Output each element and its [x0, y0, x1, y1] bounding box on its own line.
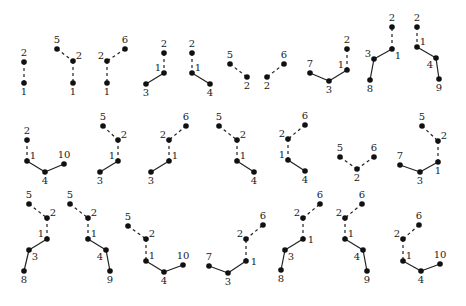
node-label: 1 [149, 250, 155, 261]
dashed-edge [169, 126, 186, 140]
node-label: 4 [207, 87, 213, 98]
solid-edge [285, 239, 303, 250]
dashed-edge [103, 126, 118, 140]
trees-diagram: 2152162121321452627312831221492141052136… [0, 0, 466, 306]
node-label: 4 [42, 175, 48, 186]
node-label: 3 [143, 87, 149, 98]
node-label: 2 [354, 172, 360, 183]
node-label: 2 [21, 47, 27, 58]
tree-node [103, 247, 109, 253]
node-label: 1 [21, 86, 27, 97]
node-label: 7 [307, 58, 313, 69]
node-label: 2 [389, 12, 395, 23]
tree-node [260, 222, 266, 228]
node-label: 8 [21, 274, 27, 285]
tree-node [44, 236, 50, 242]
node-label: 5 [125, 211, 131, 222]
solid-edge [106, 250, 110, 271]
node-label: 4 [427, 59, 433, 70]
tree-node [400, 236, 406, 242]
node-label: 5 [26, 189, 32, 200]
node-label: 1 [155, 62, 161, 73]
tree-node [435, 159, 441, 165]
node-label: 2 [414, 12, 420, 23]
solid-edge [417, 47, 436, 58]
node-label: 2 [279, 128, 285, 139]
node-label: 2 [189, 38, 195, 49]
node-label: 10 [58, 149, 71, 160]
node-label: 2 [244, 80, 250, 91]
node-label: 10 [434, 249, 447, 260]
tree-node [354, 166, 360, 172]
dashed-edge [246, 225, 263, 239]
tree-node [264, 74, 270, 80]
node-label: 2 [24, 125, 30, 136]
tree-t18: 52138 [21, 189, 56, 285]
node-label: 5 [100, 111, 106, 122]
dashed-edge [128, 226, 146, 239]
node-label: 6 [281, 49, 287, 60]
node-label: 1 [251, 256, 257, 267]
tree-node [61, 161, 67, 167]
tree-t15: 6214 [279, 110, 308, 185]
tree-t6: 52 [227, 49, 250, 91]
tree-node [125, 223, 131, 229]
tree-node [360, 247, 366, 253]
tree-node [26, 201, 32, 207]
tree-node [104, 80, 110, 86]
tree-node [104, 58, 110, 64]
solid-edge [237, 161, 254, 172]
node-label: 5 [419, 111, 425, 122]
tree-t2: 521 [54, 34, 82, 97]
tree-node [367, 77, 373, 83]
solid-edge [164, 265, 183, 272]
solid-edge [228, 261, 246, 273]
node-label: 3 [326, 84, 332, 95]
node-label: 1 [395, 50, 401, 61]
tree-node [183, 123, 189, 129]
tree-node [307, 70, 313, 76]
node-label: 6 [302, 110, 308, 121]
node-label: 2 [98, 50, 104, 61]
solid-edge [345, 239, 363, 250]
node-label: 3 [365, 48, 371, 59]
solid-edge [370, 59, 374, 80]
tree-node [285, 157, 291, 163]
tree-t4: 213 [143, 38, 167, 98]
tree-node [302, 122, 308, 128]
tree-node [342, 215, 348, 221]
tree-t3: 621 [98, 34, 128, 97]
tree-node [300, 215, 306, 221]
node-label: 1 [30, 150, 36, 161]
node-label: 5 [216, 111, 222, 122]
tree-t12: 5213 [97, 111, 127, 186]
node-label: 2 [237, 228, 243, 239]
node-label: 4 [418, 274, 424, 285]
dashed-edge [267, 64, 284, 77]
tree-node [70, 80, 76, 86]
tree-node [243, 258, 249, 264]
node-label: 2 [240, 129, 246, 140]
node-label: 1 [70, 86, 76, 97]
tree-node [281, 61, 287, 67]
tree-node [437, 261, 443, 267]
node-label: 2 [50, 207, 56, 218]
node-label: 5 [54, 34, 60, 45]
node-label: 2 [336, 207, 342, 218]
tree-node [244, 74, 250, 80]
tree-node [107, 268, 113, 274]
node-label: 1 [91, 228, 97, 239]
tree-t21: 73126 [206, 210, 266, 287]
dashed-edge [70, 204, 88, 218]
node-label: 2 [121, 129, 127, 140]
node-label: 1 [420, 36, 426, 47]
solid-edge [100, 161, 118, 172]
dashed-edge [422, 126, 438, 141]
tree-node [397, 162, 403, 168]
tree-t1: 21 [21, 47, 27, 97]
tree-node [161, 269, 167, 275]
node-label: 2 [344, 34, 350, 45]
solid-edge [45, 164, 64, 172]
node-label: 3 [148, 175, 154, 186]
tree-t23: 62149 [336, 189, 370, 285]
